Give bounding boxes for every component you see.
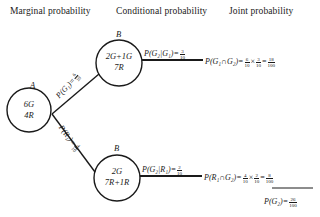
node-b-upper-line1: 2G+1G [106,51,133,61]
node-b-lower-line1: 2G [112,166,122,176]
joint-r1-and-g2: P(R₁∩G₂)=410×210=8100 [204,173,274,184]
node-b-lower-label: B [114,144,119,153]
node-a-label: A [30,81,35,90]
node-b-lower-contents: 2G 7R+1R [95,166,139,188]
node-b-upper-contents: 2G+1G 7R [99,51,139,73]
total-probability-g2-fraction: 26100 [289,197,297,208]
probability-tree [0,0,320,217]
conditional-g2-given-g1-fraction: 310 [180,49,185,60]
node-b-upper-line2: 7R [114,62,123,72]
node-b-lower-line2: 7R+1R [105,177,130,187]
conditional-g2-given-r1: P(G₂|R₁)=210 [142,165,183,176]
conditional-g2-given-g1: P(G₂|G₁)=310 [144,49,186,60]
conditional-g2-given-r1-fraction: 210 [177,165,182,176]
joint-g1-and-g2-result: 18100 [268,57,276,68]
joint-g1-and-g2: P(G₁∩G₂)=610×310=18100 [205,57,276,68]
total-probability-g2: P(G₂)=26100 [264,197,298,208]
node-a-contents: 6G 4R [14,99,44,121]
node-a-line1: 6G [24,99,34,109]
node-b-upper-label: B [116,30,121,39]
node-a-line2: 4R [24,110,33,120]
joint-r1-and-g2-result: 8100 [266,173,274,184]
